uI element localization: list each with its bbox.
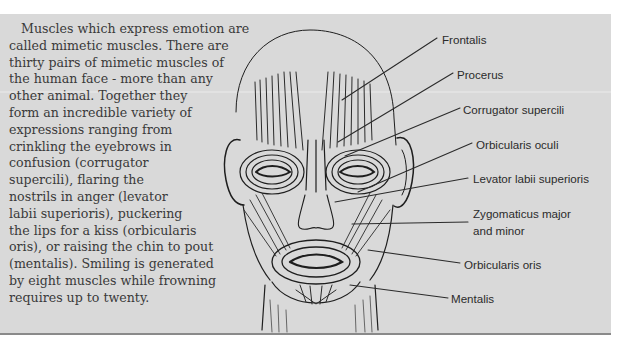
label-mentalis: Mentalis (451, 290, 494, 307)
orbicularis-oculi-left (240, 150, 304, 194)
label-levator-labii-superioris: Levator labii superioris (473, 170, 589, 187)
left-ear (225, 140, 244, 205)
leader-orbicularis-oculi (358, 143, 472, 192)
neck (262, 285, 378, 330)
leader-lines (335, 38, 472, 298)
orbicularis-oris (272, 240, 360, 284)
orbicularis-oculi-right (326, 150, 390, 194)
leader-corrugator (345, 108, 460, 156)
leader-mentalis (350, 285, 448, 298)
chin (272, 282, 360, 303)
label-zygomaticus-major: Zygomaticus major (473, 205, 571, 222)
label-procerus: Procerus (457, 66, 503, 83)
procerus-muscle (306, 140, 326, 192)
frontalis-muscle (255, 72, 372, 150)
label-zygomaticus-minor: and minor (473, 222, 525, 239)
leader-orbicularis-oris (368, 250, 460, 263)
label-corrugator-supercili: Corrugator supercili (463, 101, 564, 118)
nose (298, 195, 333, 229)
label-orbicularis-oris: Orbicularis oris (464, 256, 541, 273)
leader-levator (335, 178, 468, 202)
label-frontalis: Frontalis (442, 31, 486, 48)
label-orbicularis-oculi: Orbicularis oculi (476, 136, 558, 153)
